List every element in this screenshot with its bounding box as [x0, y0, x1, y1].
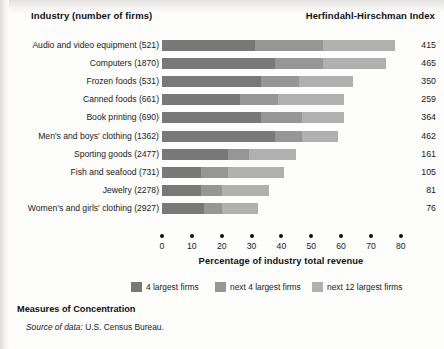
row-value-hhi: 81: [404, 185, 436, 196]
bar-segment: [162, 185, 201, 196]
legend-label: next 4 largest firms: [230, 282, 301, 292]
row-value-hhi: 76: [404, 203, 436, 214]
bar-segment: [261, 112, 303, 123]
stacked-bar: [162, 167, 284, 178]
row-label-industry: Jewelry (2278): [103, 185, 162, 196]
bar-segment: [201, 167, 228, 178]
stacked-bar: [162, 112, 344, 123]
row-value-hhi: 350: [404, 76, 436, 87]
row-label-industry: Women's and girls' clothing (2927): [28, 203, 162, 214]
bar-segment: [162, 58, 275, 69]
footer-source: Source of data: U.S. Census Bureau.: [26, 322, 164, 332]
chart-row: Computers (1870)465: [0, 58, 444, 69]
row-label-industry: Audio and video equipment (521): [32, 40, 162, 51]
axis-tick-label: 70: [366, 241, 376, 251]
stacked-bar: [162, 58, 386, 69]
row-label-industry: Sporting goods (2477): [74, 149, 162, 160]
chart-legend: 4 largest firmsnext 4 largest firmsnext …: [0, 281, 444, 295]
chart-row: Frozen foods (531)350: [0, 76, 444, 87]
row-value-hhi: 415: [404, 40, 436, 51]
legend-item: next 12 largest firms: [312, 281, 402, 293]
chart-row: Jewelry (2278)81: [0, 185, 444, 196]
chart-row: Sporting goods (2477)161: [0, 149, 444, 160]
bar-segment: [162, 94, 240, 105]
footer-source-prefix: Source of data:: [26, 322, 83, 332]
axis-tick-dot: [399, 234, 403, 238]
bar-segment: [261, 76, 300, 87]
bar-segment: [222, 185, 270, 196]
axis-tick-dot: [309, 234, 313, 238]
x-axis: 01020304050607080 Percentage of industry…: [0, 231, 444, 261]
bar-segment: [323, 40, 395, 51]
row-label-industry: Canned foods (661): [83, 94, 162, 105]
bar-segment: [162, 149, 228, 160]
row-value-hhi: 161: [404, 149, 436, 160]
chart-row: Canned foods (661)259: [0, 94, 444, 105]
chart-page: Industry (number of firms) Herfindahl-Hi…: [0, 0, 444, 349]
axis-tick-label: 50: [306, 241, 316, 251]
axis-tick-label: 40: [277, 241, 287, 251]
axis-tick-label: 30: [247, 241, 257, 251]
axis-tick-dot: [279, 234, 283, 238]
bar-segment: [162, 112, 261, 123]
legend-item: 4 largest firms: [131, 281, 199, 293]
axis-tick-label: 80: [396, 241, 406, 251]
row-label-industry: Book printing (690): [86, 112, 162, 123]
row-label-industry: Frozen foods (531): [86, 76, 162, 87]
stacked-bar: [162, 203, 258, 214]
chart-row: Book printing (690)364: [0, 112, 444, 123]
bar-segment: [302, 131, 338, 142]
axis-tick-dot: [339, 234, 343, 238]
legend-label: 4 largest firms: [146, 282, 199, 292]
axis-tick-label: 20: [217, 241, 227, 251]
bar-segment: [299, 76, 353, 87]
axis-tick-dot: [250, 234, 254, 238]
stacked-bar: [162, 149, 296, 160]
bar-segment: [323, 58, 386, 69]
row-value-hhi: 465: [404, 58, 436, 69]
axis-tick-label: 0: [160, 241, 165, 251]
footer-title: Measures of Concentration: [17, 304, 135, 314]
row-value-hhi: 259: [404, 94, 436, 105]
row-label-industry: Computers (1870): [90, 58, 162, 69]
axis-tick-dot: [160, 234, 164, 238]
chart-row: Men's and boys' clothing (1362)462: [0, 131, 444, 142]
chart-row: Audio and video equipment (521)415: [0, 40, 444, 51]
stacked-bar: [162, 185, 269, 196]
bar-segment: [228, 167, 285, 178]
bar-segment: [162, 131, 275, 142]
bar-segment: [275, 58, 323, 69]
legend-label: next 12 largest firms: [327, 282, 402, 292]
bar-segment: [255, 40, 324, 51]
axis-tick-dot: [369, 234, 373, 238]
bar-segment: [302, 112, 344, 123]
bar-segment: [162, 167, 201, 178]
x-axis-title: Percentage of industry total revenue: [162, 256, 400, 266]
bar-segment: [201, 185, 222, 196]
legend-item: next 4 largest firms: [215, 281, 301, 293]
legend-swatch: [312, 282, 323, 292]
bar-segment: [275, 131, 302, 142]
bar-segment: [222, 203, 258, 214]
row-value-hhi: 364: [404, 112, 436, 123]
bar-segment: [162, 76, 261, 87]
chart-row: Fish and seafood (731)105: [0, 167, 444, 178]
stacked-bar: [162, 40, 395, 51]
row-value-hhi: 462: [404, 131, 436, 142]
legend-swatch: [131, 282, 142, 292]
column-header-industry: Industry (number of firms): [31, 10, 152, 21]
stacked-bar: [162, 76, 353, 87]
axis-tick-label: 60: [336, 241, 346, 251]
axis-tick-dot: [220, 234, 224, 238]
legend-swatch: [215, 282, 226, 292]
row-label-industry: Men's and boys' clothing (1362): [38, 131, 162, 142]
bar-segment: [162, 40, 255, 51]
stacked-bar: [162, 131, 338, 142]
row-label-industry: Fish and seafood (731): [71, 167, 162, 178]
bar-segment: [249, 149, 297, 160]
bar-segment: [278, 94, 344, 105]
chart-row: Women's and girls' clothing (2927)76: [0, 203, 444, 214]
bar-segment: [228, 149, 249, 160]
axis-tick-label: 10: [187, 241, 197, 251]
column-header-hhi: Herfindahl-Hirschman Index: [306, 10, 435, 21]
